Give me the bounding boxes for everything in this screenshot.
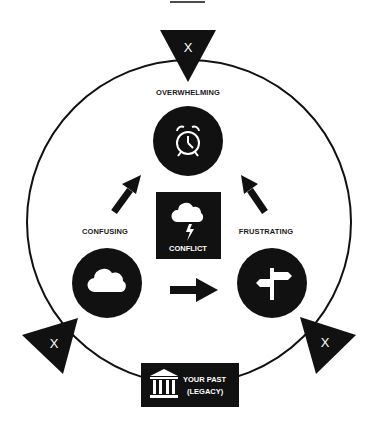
node-label-confusing: CONFUSING	[82, 227, 128, 236]
marker-right-label: X	[321, 335, 330, 350]
marker-top-label: X	[184, 40, 193, 55]
alarm-clock-icon	[153, 106, 223, 176]
arrow-frustrating-to-overwhelming	[241, 175, 265, 212]
arrow-confusing-to-overwhelming	[114, 175, 141, 212]
marker-left-label: X	[50, 336, 59, 351]
legacy-label-line2: (LEGACY)	[187, 387, 223, 396]
node-label-overwhelming: OVERWHELMING	[156, 88, 220, 97]
arrow-confusing-to-frustrating	[170, 278, 218, 302]
legacy-label-line1: YOUR PAST	[183, 375, 226, 384]
node-label-frustrating: FRUSTRATING	[239, 227, 293, 236]
cloud-icon	[72, 248, 142, 318]
conflict-label: CONFLICT	[169, 244, 207, 253]
marker-top-triangle	[160, 30, 216, 82]
legacy-box	[141, 363, 239, 407]
legacy-cycle-diagram: X X X OVERWHELMING CONFUSING FRUSTRATING…	[0, 0, 382, 428]
signpost-icon	[237, 248, 307, 318]
